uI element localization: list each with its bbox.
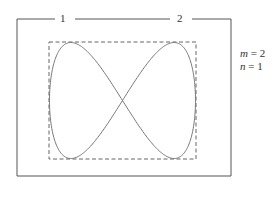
- channel-label-2: 2: [177, 12, 183, 24]
- channel-label-1: 1: [60, 12, 66, 24]
- parameter-m: m = 2: [240, 47, 265, 59]
- lissajous-curve: [50, 43, 196, 159]
- n-symbol: n: [240, 60, 246, 72]
- n-value: = 1: [248, 60, 262, 72]
- m-symbol: m: [240, 47, 248, 59]
- parameter-n: n = 1: [240, 60, 263, 72]
- lissajous-diagram: [0, 0, 276, 197]
- m-value: = 2: [251, 47, 265, 59]
